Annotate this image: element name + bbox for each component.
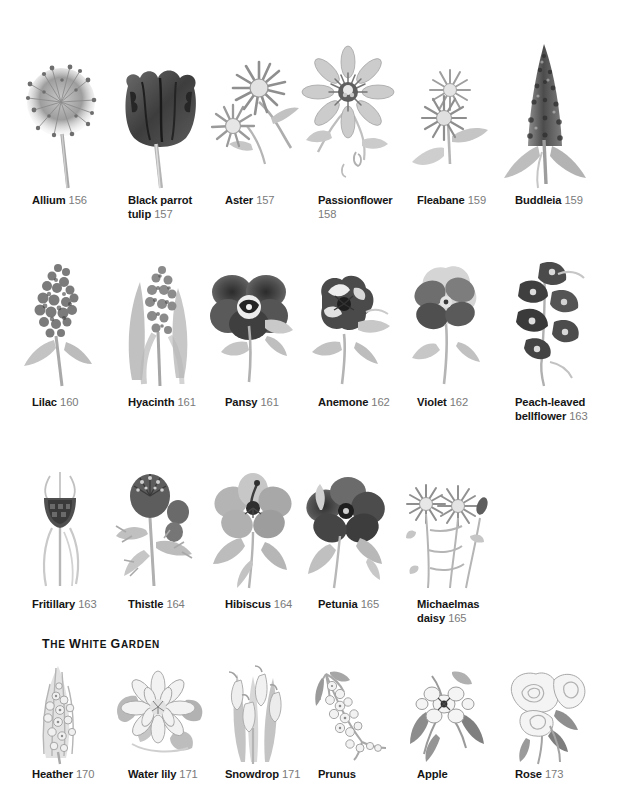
black-parrot-tulip-illustration xyxy=(112,40,208,190)
flower-name: Violet xyxy=(417,396,447,408)
caption-snowdrop[interactable]: Snowdrop 171 xyxy=(225,768,300,782)
index-cell-water-lily[interactable] xyxy=(112,660,208,765)
flower-name: Snowdrop xyxy=(225,768,279,780)
water-lily-illustration xyxy=(112,660,208,765)
caption-passionflower[interactable]: Passionflower 158 xyxy=(318,194,410,221)
flower-name: Prunus xyxy=(318,768,356,780)
page-number: 165 xyxy=(448,612,466,624)
index-cell-lilac[interactable] xyxy=(14,258,110,388)
peach-leaved-bellflower-illustration xyxy=(498,258,594,388)
caption-peach-leaved-bellflower[interactable]: Peach-leaved bellflower 163 xyxy=(515,396,615,423)
flower-name: Fleabane xyxy=(417,194,465,206)
flower-name: Allium xyxy=(32,194,66,206)
index-cell-heather[interactable] xyxy=(14,660,110,765)
caption-allium[interactable]: Allium 156 xyxy=(32,194,87,208)
page-number: 162 xyxy=(371,396,389,408)
page-number: 158 xyxy=(318,208,336,220)
apple-illustration xyxy=(400,660,496,765)
index-cell-hibiscus[interactable] xyxy=(207,470,303,590)
flower-name: Petunia xyxy=(318,598,358,610)
heading-he: HE xyxy=(50,639,65,650)
caption-hyacinth[interactable]: Hyacinth 161 xyxy=(128,396,196,410)
heading-arden: ARDEN xyxy=(121,639,160,650)
page-number: 159 xyxy=(468,194,486,206)
page-number: 170 xyxy=(76,768,94,780)
page-number: 161 xyxy=(260,396,278,408)
caption-lilac[interactable]: Lilac 160 xyxy=(32,396,78,410)
page-number: 160 xyxy=(60,396,78,408)
flower-name: Anemone xyxy=(318,396,368,408)
heading-cap-w: W xyxy=(69,637,81,651)
index-cell-apple[interactable] xyxy=(400,660,496,765)
flower-name: Hyacinth xyxy=(128,396,174,408)
page-number: 163 xyxy=(569,410,587,422)
index-cell-bellflower[interactable] xyxy=(498,258,594,388)
index-cell-thistle[interactable] xyxy=(112,470,208,590)
caption-heather[interactable]: Heather 170 xyxy=(32,768,94,782)
page-number: 171 xyxy=(282,768,300,780)
index-cell-anemone[interactable] xyxy=(300,258,396,388)
page-number: 163 xyxy=(78,598,96,610)
page-number: 171 xyxy=(179,768,197,780)
index-cell-pansy[interactable] xyxy=(207,258,303,388)
hibiscus-illustration xyxy=(207,470,303,590)
caption-prunus[interactable]: Prunus xyxy=(318,768,356,782)
page-number: 157 xyxy=(154,208,172,220)
index-cell-hyacinth[interactable] xyxy=(112,258,208,388)
index-cell-snowdrop[interactable] xyxy=(207,660,303,765)
buddleia-illustration xyxy=(498,40,594,190)
index-cell-prunus[interactable] xyxy=(300,660,396,765)
index-cell-violet[interactable] xyxy=(400,258,496,388)
allium-illustration xyxy=(14,40,110,190)
section-heading-white-garden: THE WHITE GARDEN xyxy=(42,637,160,651)
index-cell-buddleia[interactable] xyxy=(498,40,594,190)
caption-anemone[interactable]: Anemone 162 xyxy=(318,396,390,410)
flower-name: Apple xyxy=(417,768,448,780)
rose-illustration xyxy=(498,660,594,765)
anemone-illustration xyxy=(300,258,396,388)
index-cell-tulip[interactable] xyxy=(112,40,208,190)
aster-illustration xyxy=(207,40,303,190)
page-number: 161 xyxy=(177,396,195,408)
lilac-illustration xyxy=(14,258,110,388)
caption-petunia[interactable]: Petunia 165 xyxy=(318,598,379,612)
index-cell-michaelmas-daisy[interactable] xyxy=(400,470,496,590)
index-cell-passionflower[interactable] xyxy=(300,40,396,190)
page-number: 157 xyxy=(256,194,274,206)
page-number: 164 xyxy=(274,598,292,610)
caption-apple[interactable]: Apple xyxy=(417,768,448,782)
flower-name: Hibiscus xyxy=(225,598,271,610)
flower-name: Buddleia xyxy=(515,194,561,206)
page-number: 159 xyxy=(564,194,582,206)
thistle-illustration xyxy=(112,470,208,590)
heading-hite: HITE xyxy=(81,639,107,650)
index-cell-rose[interactable] xyxy=(498,660,594,765)
index-cell-aster[interactable] xyxy=(207,40,303,190)
flower-name: Water lily xyxy=(128,768,176,780)
heading-cap-g: G xyxy=(111,637,121,651)
caption-hibiscus[interactable]: Hibiscus 164 xyxy=(225,598,292,612)
petunia-illustration xyxy=(300,470,396,590)
caption-violet[interactable]: Violet 162 xyxy=(417,396,468,410)
caption-aster[interactable]: Aster 157 xyxy=(225,194,275,208)
violet-illustration xyxy=(400,258,496,388)
index-cell-petunia[interactable] xyxy=(300,470,396,590)
caption-pansy[interactable]: Pansy 161 xyxy=(225,396,279,410)
index-cell-fritillary[interactable] xyxy=(14,470,110,590)
caption-black-parrot-tulip[interactable]: Black parrot tulip 157 xyxy=(128,194,216,221)
caption-rose[interactable]: Rose 173 xyxy=(515,768,563,782)
heather-illustration xyxy=(14,660,110,765)
index-cell-allium[interactable] xyxy=(14,40,110,190)
caption-fleabane[interactable]: Fleabane 159 xyxy=(417,194,486,208)
page-number: 162 xyxy=(450,396,468,408)
caption-michaelmas-daisy[interactable]: Michaelmas daisy 165 xyxy=(417,598,503,625)
index-page: Allium 156 Black parrot tulip 157 Aster … xyxy=(0,0,626,791)
caption-buddleia[interactable]: Buddleia 159 xyxy=(515,194,583,208)
caption-thistle[interactable]: Thistle 164 xyxy=(128,598,185,612)
index-cell-fleabane[interactable] xyxy=(400,40,496,190)
pansy-illustration xyxy=(207,258,303,388)
caption-fritillary[interactable]: Fritillary 163 xyxy=(32,598,97,612)
fleabane-illustration xyxy=(400,40,496,190)
caption-water-lily[interactable]: Water lily 171 xyxy=(128,768,198,782)
flower-name: Rose xyxy=(515,768,542,780)
